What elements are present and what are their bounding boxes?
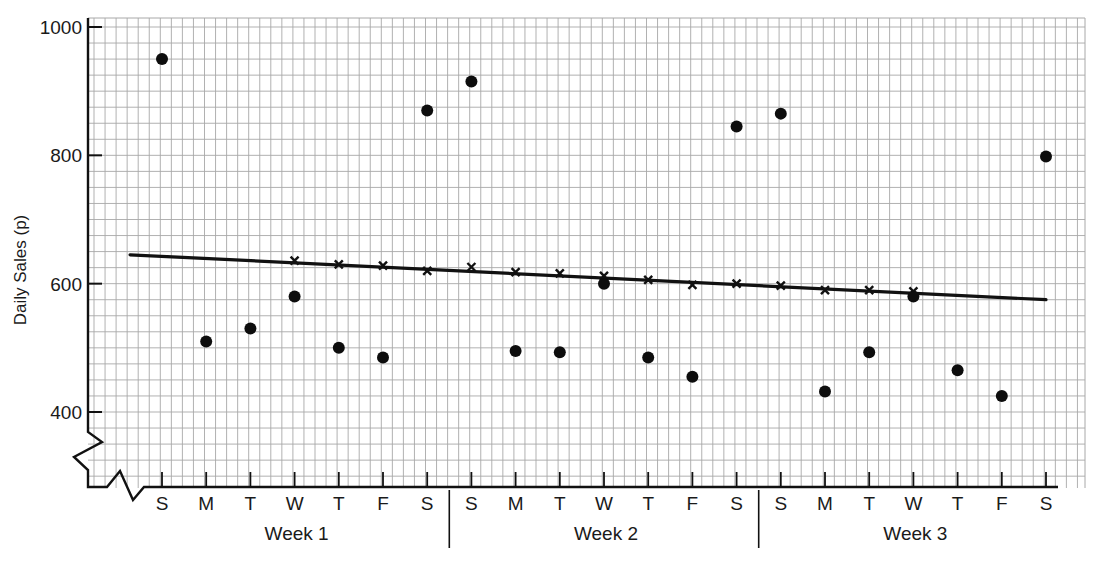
sales-chart: 4006008001000 SMTWTFSSMTWTFSSMTWTFS Week… [0,0,1095,561]
y-axis-title: Daily Sales (p) [11,215,30,326]
data-point [289,291,301,303]
x-tick-label: T [863,493,875,514]
x-tick-label: T [642,493,654,514]
x-tick-label: S [730,493,743,514]
data-point [819,385,831,397]
data-point [598,278,610,290]
data-point [642,351,654,363]
x-tick-label: S [1040,493,1053,514]
x-tick-label: S [421,493,434,514]
data-point [554,346,566,358]
data-point [465,76,477,88]
x-tick-label: F [687,493,699,514]
x-tick-label: T [554,493,566,514]
data-point [421,104,433,116]
x-tick-label: F [996,493,1008,514]
data-point [907,291,919,303]
sales-points [156,53,1052,402]
week-label: Week 2 [574,523,638,544]
x-tick-label: M [508,493,524,514]
x-tick-label: W [286,493,304,514]
x-tick-label: S [774,493,787,514]
x-tick-label: S [465,493,478,514]
x-tick-label: T [333,493,345,514]
data-point [1040,151,1052,163]
data-point [510,345,522,357]
x-tick-label: M [817,493,833,514]
x-axis-ticks: SMTWTFSSMTWTFSSMTWTFS [156,472,1053,514]
x-tick-label: F [377,493,389,514]
x-tick-label: S [156,493,169,514]
data-point [244,323,256,335]
y-tick-label: 600 [50,274,82,295]
grid-lines [88,18,1085,488]
week-label: Week 3 [883,523,947,544]
y-tick-label: 400 [50,402,82,423]
data-point [952,364,964,376]
y-axis-ticks: 4006008001000 [40,17,102,423]
y-tick-label: 800 [50,145,82,166]
data-point [377,351,389,363]
data-point [200,335,212,347]
data-point [863,346,875,358]
x-tick-label: T [245,493,257,514]
x-tick-label: T [952,493,964,514]
data-point [156,53,168,65]
y-tick-label: 1000 [40,17,82,38]
data-point [731,120,743,132]
x-tick-label: W [904,493,922,514]
x-tick-label: M [198,493,214,514]
week-label: Week 1 [265,523,329,544]
data-point [333,342,345,354]
data-point [996,390,1008,402]
data-point [775,108,787,120]
data-point [686,371,698,383]
x-tick-label: W [595,493,613,514]
